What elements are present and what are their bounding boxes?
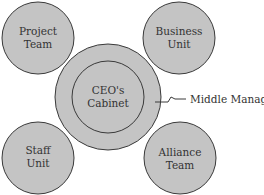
- organization-diagram: Project Team Business Unit Staff Unit Al…: [0, 0, 264, 195]
- node-center: CEO's Cabinet: [55, 44, 161, 150]
- node-staff-unit: Staff Unit: [2, 122, 74, 194]
- node-business-unit: Business Unit: [143, 2, 215, 74]
- alliance-team-label-line2: Team: [166, 159, 195, 171]
- node-project-team: Project Team: [2, 2, 74, 74]
- middle-managers-callout: Middle Managers: [155, 93, 264, 105]
- ceos-cabinet-label-line2: Cabinet: [87, 97, 129, 109]
- middle-managers-label: Middle Managers: [190, 93, 264, 105]
- project-team-label-line1: Project: [19, 25, 58, 37]
- business-unit-label-line1: Business: [156, 25, 203, 37]
- node-alliance-team: Alliance Team: [144, 122, 216, 194]
- ceos-cabinet-label-line1: CEO's: [92, 84, 125, 96]
- project-team-label-line2: Team: [24, 38, 53, 50]
- business-unit-label-line2: Unit: [167, 38, 191, 50]
- staff-unit-label-line2: Unit: [26, 157, 50, 169]
- staff-unit-label-line1: Staff: [25, 144, 52, 156]
- alliance-team-circle: [144, 122, 216, 194]
- alliance-team-label-line1: Alliance: [158, 146, 202, 158]
- diagram-canvas: Project Team Business Unit Staff Unit Al…: [0, 0, 264, 195]
